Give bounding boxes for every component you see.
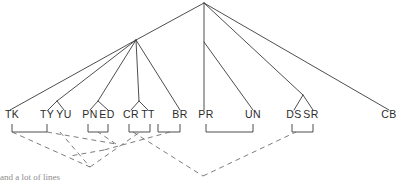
bracket-pn-ed — [88, 124, 108, 132]
leaf-label-group: TKTYYUPNEDCRTTBRPRUNDSSRCB — [5, 108, 397, 120]
leaf-label-cb: CB — [381, 108, 396, 120]
caption-fragment: and a lot of lines — [0, 172, 398, 182]
root-to-dssr — [204, 3, 303, 95]
cluster-to-crtt — [136, 40, 139, 101]
cluster-to-br — [136, 40, 180, 110]
solid-edge-group — [10, 3, 389, 110]
leaf-label-tk: TK — [5, 108, 19, 120]
leaf-label-pn: PN — [82, 108, 97, 120]
bracket-ds-sr — [292, 124, 313, 132]
leaf-label-sr: SR — [303, 108, 318, 120]
cluster-to-tyyu — [57, 40, 136, 101]
leaf-label-ty: TY — [40, 108, 54, 120]
leaf-label-ds: DS — [286, 108, 301, 120]
leaf-label-tt: TT — [141, 108, 155, 120]
bracket-tk-ty — [12, 124, 47, 132]
bracket-cr-tt — [129, 124, 150, 132]
leaf-label-cr: CR — [123, 108, 139, 120]
dash-vertexA-to-crtt — [90, 132, 140, 167]
root-to-cb — [204, 3, 389, 110]
cluster-to-pned — [98, 40, 136, 101]
dendrogram-figure: TKTYYUPNEDCRTTBRPRUNDSSRCB — [0, 0, 398, 182]
leaf-label-br: BR — [172, 108, 187, 120]
cluster-to-tk — [10, 40, 136, 110]
root-to-un — [204, 42, 253, 110]
bracket-br — [158, 124, 180, 132]
leaf-label-yu: YU — [56, 108, 71, 120]
dash-ridge-to-pned — [98, 132, 116, 144]
leaf-label-pr: PR — [198, 108, 213, 120]
dash-crtt-to-vertexB — [133, 132, 203, 176]
leaf-label-un: UN — [245, 108, 261, 120]
dash-ty-to-ridge — [47, 132, 116, 144]
bracket-pr-un — [206, 124, 253, 132]
bracket-group — [12, 124, 313, 132]
dash-vertexB-to-dssr — [203, 132, 296, 176]
dashed-edge-group — [12, 132, 296, 176]
dash-fold-to-left — [70, 150, 104, 156]
leaf-label-ed: ED — [99, 108, 114, 120]
dendrogram-canvas: TKTYYUPNEDCRTTBRPRUNDSSRCB — [0, 0, 398, 182]
root-to-left-cluster — [136, 3, 204, 40]
